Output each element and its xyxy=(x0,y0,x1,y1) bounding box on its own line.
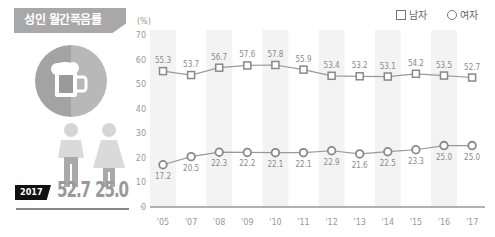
female-data-point xyxy=(356,150,364,158)
female-data-label: 17.2 xyxy=(155,172,171,181)
male-data-point xyxy=(216,64,223,71)
x-tick-label: '08 xyxy=(213,218,225,227)
male-data-label: 55.9 xyxy=(295,55,311,64)
male-data-label: 53.1 xyxy=(380,62,396,71)
female-data-label: 25.0 xyxy=(464,153,480,162)
x-tick-label: '09 xyxy=(241,218,253,227)
male-data-point xyxy=(469,74,476,81)
female-data-point xyxy=(244,149,252,157)
female-data-point xyxy=(272,149,280,157)
y-tick-label: 70 xyxy=(136,31,146,40)
column-band xyxy=(319,30,345,207)
female-data-label: 22.9 xyxy=(324,158,340,167)
column-band xyxy=(431,30,457,207)
female-data-label: 23.3 xyxy=(408,157,424,166)
male-data-point xyxy=(412,70,419,77)
x-tick-label: '10 xyxy=(269,218,281,227)
male-data-point xyxy=(244,62,251,69)
y-tick-label: 30 xyxy=(136,129,146,138)
column-band xyxy=(375,30,401,207)
female-data-label: 22.2 xyxy=(239,159,255,168)
female-data-label: 20.5 xyxy=(183,164,199,173)
female-data-label: 22.1 xyxy=(295,160,311,169)
female-data-point xyxy=(215,148,223,156)
male-data-point xyxy=(441,72,448,79)
x-tick-label: '13 xyxy=(354,218,366,227)
female-data-label: 22.1 xyxy=(267,160,283,169)
male-data-point xyxy=(188,72,195,79)
female-data-point xyxy=(300,149,308,157)
male-data-label: 53.4 xyxy=(324,61,340,70)
male-data-label: 53.5 xyxy=(436,61,452,70)
female-data-point xyxy=(384,148,392,156)
x-tick-label: '15 xyxy=(410,218,422,227)
female-data-point xyxy=(159,161,167,169)
male-data-point xyxy=(272,61,279,68)
male-data-point xyxy=(300,66,307,73)
female-data-point xyxy=(468,142,476,150)
female-data-label: 22.3 xyxy=(211,159,227,168)
x-tick-label: '12 xyxy=(325,218,337,227)
male-data-label: 56.7 xyxy=(211,53,227,62)
female-data-point xyxy=(440,142,448,150)
female-data-label: 25.0 xyxy=(436,153,452,162)
male-data-point xyxy=(356,73,363,80)
x-tick-label: '11 xyxy=(297,218,309,227)
y-tick-label: 60 xyxy=(136,56,146,65)
male-data-label: 53.2 xyxy=(352,61,368,70)
y-tick-label: 20 xyxy=(136,154,146,163)
male-data-point xyxy=(328,72,335,79)
male-data-point xyxy=(384,73,391,80)
x-tick-label: '07 xyxy=(185,218,197,227)
male-data-label: 57.6 xyxy=(239,50,255,59)
female-data-label: 21.6 xyxy=(352,161,368,170)
female-data-point xyxy=(328,147,336,155)
male-data-label: 54.2 xyxy=(408,59,424,68)
male-data-label: 55.3 xyxy=(155,56,171,65)
y-axis-unit: (%) xyxy=(137,17,151,26)
x-tick-label: '05 xyxy=(157,218,169,227)
y-tick-label: 40 xyxy=(136,105,146,114)
female-data-label: 22.5 xyxy=(380,159,396,168)
male-data-label: 57.8 xyxy=(267,50,283,59)
female-data-point xyxy=(187,153,195,161)
y-tick-label: 50 xyxy=(136,80,146,89)
male-data-label: 53.7 xyxy=(183,60,199,69)
x-tick-label: '17 xyxy=(466,218,478,227)
x-tick-label: '16 xyxy=(438,218,450,227)
female-data-point xyxy=(412,146,420,154)
male-data-label: 52.7 xyxy=(464,63,480,72)
line-chart: 010203040506070(%)'05'07'08'09'10'11'12'… xyxy=(0,0,495,237)
male-data-point xyxy=(160,68,167,75)
y-tick-label: 10 xyxy=(136,178,146,187)
x-tick-label: '14 xyxy=(382,218,394,227)
